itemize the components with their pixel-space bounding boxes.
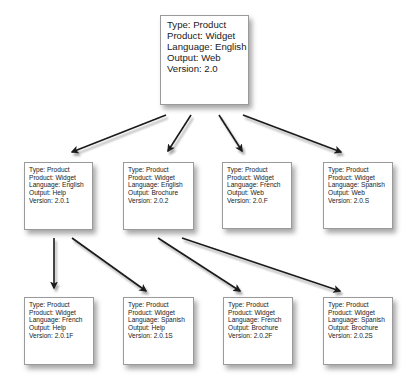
node-output: Output: Web (328, 189, 392, 197)
node-product: Product: Widget (128, 309, 193, 317)
node-version: Version: 2.0.2F (228, 332, 292, 340)
node-type: Type: Product (328, 166, 392, 174)
node-product: Product: Widget (228, 309, 292, 317)
node-type: Type: Product (128, 166, 193, 174)
node-language: Language: English (29, 181, 92, 189)
node-version: Version: 2.0.2 (128, 197, 193, 205)
node-type: Type: Product (128, 301, 193, 309)
arrow-root-to-n2 (168, 115, 191, 151)
node-language: Language: French (227, 181, 291, 189)
node-output: Output: Web (227, 189, 291, 197)
node-version: Version: 2.0.F (227, 197, 291, 205)
node-language: Language: French (228, 316, 292, 324)
node-output: Output: Help (29, 324, 93, 332)
node-version: Version: 2.0.2S (328, 332, 392, 340)
node-brochure-french: Type: Product Product: Widget Language: … (223, 297, 293, 365)
arrow-n2-to-n8 (182, 238, 340, 291)
node-root: Type: Product Product: Widget Language: … (160, 15, 249, 105)
node-output: Output: Brochure (128, 189, 193, 197)
node-brochure-spanish: Type: Product Product: Widget Language: … (323, 297, 393, 365)
node-help-english: Type: Product Product: Widget Language: … (24, 162, 93, 230)
arrow-n2-to-n7 (158, 238, 240, 291)
arrow-root-to-n3 (219, 115, 242, 151)
node-version: Version: 2.0.1S (128, 332, 193, 340)
node-language: Language: Spanish (128, 316, 193, 324)
node-web-french: Type: Product Product: Widget Language: … (222, 162, 292, 229)
node-product: Product: Widget (29, 174, 92, 182)
node-version: Version: 2.0.1 (29, 197, 92, 205)
node-brochure-english: Type: Product Product: Widget Language: … (123, 162, 194, 230)
node-type: Type: Product (29, 301, 93, 309)
arrow-n1-to-n6 (72, 238, 146, 291)
node-language: Language: English (128, 181, 193, 189)
node-help-french: Type: Product Product: Widget Language: … (24, 297, 94, 365)
node-root-version: Version: 2.0 (167, 63, 248, 74)
node-type: Type: Product (29, 166, 92, 174)
node-output: Output: Brochure (328, 324, 392, 332)
node-language: Language: French (29, 316, 93, 324)
node-web-spanish: Type: Product Product: Widget Language: … (323, 162, 393, 229)
node-product: Product: Widget (29, 309, 93, 317)
node-output: Output: Help (29, 189, 92, 197)
node-output: Output: Help (128, 324, 193, 332)
node-help-spanish: Type: Product Product: Widget Language: … (123, 297, 194, 365)
node-language: Language: Spanish (328, 181, 392, 189)
node-language: Language: Spanish (328, 316, 392, 324)
node-output: Output: Brochure (228, 324, 292, 332)
node-product: Product: Widget (227, 174, 291, 182)
node-product: Product: Widget (128, 174, 193, 182)
node-type: Type: Product (228, 301, 292, 309)
node-type: Type: Product (227, 166, 291, 174)
node-root-product: Product: Widget (167, 30, 248, 41)
node-root-type: Type: Product (167, 19, 248, 30)
node-root-output: Output: Web (167, 52, 248, 63)
node-version: Version: 2.0.S (328, 197, 392, 205)
node-root-language: Language: English (167, 41, 248, 52)
node-version: Version: 2.0.1F (29, 332, 93, 340)
node-product: Product: Widget (328, 309, 392, 317)
node-type: Type: Product (328, 301, 392, 309)
arrow-root-to-n1 (72, 115, 166, 152)
arrow-root-to-n4 (243, 115, 341, 152)
node-product: Product: Widget (328, 174, 392, 182)
